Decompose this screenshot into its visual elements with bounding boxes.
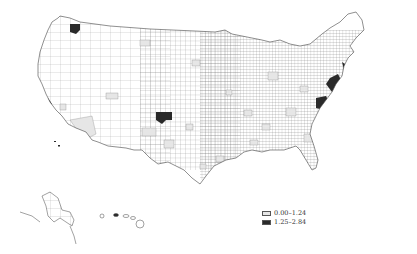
us-county-map bbox=[0, 0, 417, 254]
dc-region bbox=[316, 96, 330, 110]
channel-islands bbox=[54, 141, 60, 147]
contiguous-us bbox=[30, 10, 370, 184]
legend-label-low: 0.00–1.24 bbox=[274, 209, 306, 218]
legend-swatch-high bbox=[262, 220, 271, 225]
legend-swatch-low bbox=[262, 211, 271, 216]
alaska bbox=[20, 192, 76, 244]
hawaii bbox=[100, 214, 144, 229]
la-region bbox=[58, 130, 78, 150]
legend-item-low: 0.00–1.24 bbox=[262, 209, 306, 218]
legend: 0.00–1.24 1.25–2.84 bbox=[262, 209, 306, 227]
legend-item-high: 1.25–2.84 bbox=[262, 218, 306, 227]
legend-label-high: 1.25–2.84 bbox=[274, 218, 306, 227]
